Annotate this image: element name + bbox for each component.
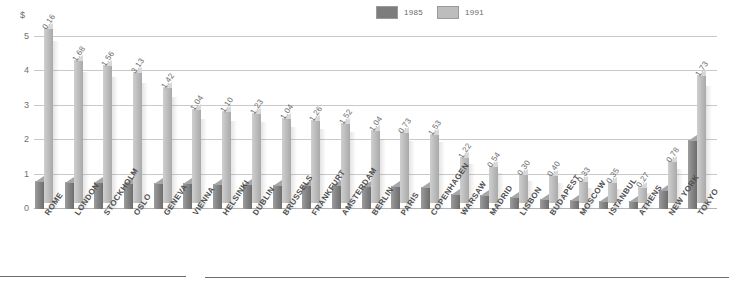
bar-1991[interactable] [668,161,677,203]
bar-1991[interactable] [697,75,706,203]
legend-swatch-1985 [376,6,398,19]
y-axis-tick-label: 3 [24,100,29,110]
bar-1991[interactable] [430,134,439,203]
bar-1985[interactable] [154,183,163,209]
bar-1991[interactable] [282,118,291,203]
bar-1985[interactable] [540,199,549,209]
bar-1991[interactable] [341,123,350,203]
bar-1991[interactable] [44,28,53,203]
data-label: 0.16 [41,12,58,31]
x-axis-category-labels: ROMELONDONSTOCKHOLMOSLOGENEVAVIENNAHELSI… [34,212,717,272]
bar-1991[interactable] [400,132,409,203]
bar-group [154,31,182,209]
legend-item-1985: 1985 [376,6,423,19]
bar-1991[interactable] [252,113,261,203]
bar-group [213,31,241,209]
legend-swatch-1991 [437,6,459,19]
footer-rule-right [205,277,729,278]
bar-1985[interactable] [65,182,74,209]
bar-1985[interactable] [451,194,460,209]
bar-group [183,31,211,209]
bar-chart: 1985 1991 $ 012345 0.161.681.563.131.421… [0,0,729,284]
y-axis-currency-symbol: $ [20,10,25,20]
bar-1991[interactable] [192,109,201,203]
y-axis-tick-label: 4 [24,65,29,75]
bar-1991[interactable] [133,72,142,203]
bar-1991[interactable] [74,60,83,203]
bar-1985[interactable] [629,201,638,209]
bar-1985[interactable] [480,195,489,209]
y-axis-tick-label: 5 [24,31,29,41]
footer-rule-left [0,276,186,277]
y-axis-tick-label: 1 [24,169,29,179]
y-axis-tick-label: 2 [24,134,29,144]
bar-1985[interactable] [570,200,579,209]
bar-1991[interactable] [311,120,320,203]
chart-legend: 1985 1991 [376,4,484,20]
bar-1985[interactable] [599,201,608,209]
bar-1985[interactable] [35,181,44,209]
bar-group [540,31,568,209]
bar-group [35,31,63,209]
bar-1985[interactable] [213,184,222,209]
legend-label-1985: 1985 [404,7,423,18]
bar-group [659,31,687,209]
legend-label-1991: 1991 [465,7,484,18]
bar-1985[interactable] [421,187,430,209]
bar-1991[interactable] [103,65,112,203]
plot-area: 012345 0.161.681.563.131.421.041.101.231… [34,31,717,209]
bar-1991[interactable] [163,87,172,203]
legend-item-1991: 1991 [437,6,484,19]
bar-1991[interactable] [222,111,231,203]
bar-group [510,31,538,209]
bar-1985[interactable] [510,197,519,209]
y-axis-tick-label: 0 [24,203,29,213]
